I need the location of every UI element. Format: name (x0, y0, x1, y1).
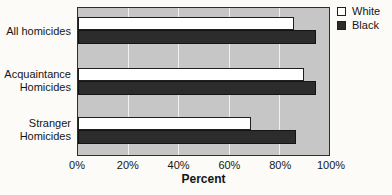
bar-white-2 (78, 117, 251, 130)
category-label-line: Homicides (20, 81, 71, 94)
homicide-bar-chart: All homicidesAcquaintanceHomicidesStrang… (0, 0, 392, 195)
plot-area (77, 7, 330, 156)
category-label: StrangerHomicides (0, 113, 71, 146)
legend-swatch-black (337, 21, 346, 30)
bar-black-1 (78, 81, 316, 95)
x-axis-tick: 100% (317, 159, 345, 171)
bar-group (78, 68, 329, 95)
x-axis-ticks: 0%20%40%60%80%100% (77, 159, 331, 172)
legend-label: White (352, 5, 380, 18)
legend: WhiteBlack (337, 5, 380, 33)
bar-black-2 (78, 130, 296, 144)
category-label: All homicides (0, 17, 71, 45)
legend-swatch-white (337, 7, 346, 16)
bar-white-1 (78, 68, 304, 81)
x-axis-tick: 40% (168, 159, 190, 171)
bar-group (78, 17, 329, 44)
category-label-line: Acquaintance (4, 68, 71, 81)
legend-label: Black (352, 19, 379, 32)
legend-item: White (337, 5, 380, 18)
legend-item: Black (337, 19, 380, 32)
category-label-line: Stranger (29, 117, 71, 130)
x-axis-tick: 0% (69, 159, 85, 171)
category-label: AcquaintanceHomicides (0, 64, 71, 98)
bar-group (78, 117, 329, 144)
category-label-line: All homicides (6, 25, 71, 38)
x-axis-tick: 80% (269, 159, 291, 171)
x-axis-title: Percent (77, 172, 330, 186)
category-label-line: Homicides (20, 130, 71, 143)
x-axis-tick: 20% (117, 159, 139, 171)
bar-black-0 (78, 30, 316, 44)
x-axis-tick: 60% (218, 159, 240, 171)
bar-white-0 (78, 17, 294, 30)
